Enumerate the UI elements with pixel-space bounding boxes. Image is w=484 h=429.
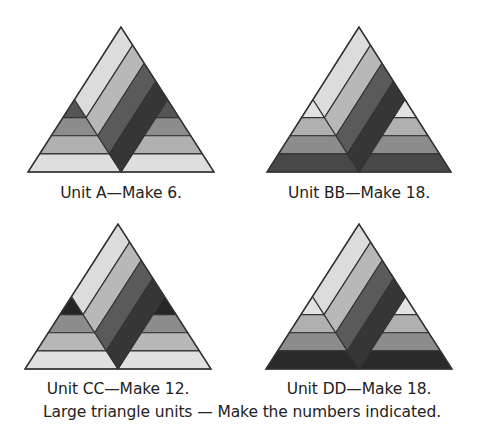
triangle-unit-dd-diagram [0, 0, 484, 429]
figure-caption: Large triangle units — Make the numbers … [0, 403, 484, 421]
unit-dd-caption: Unit DD—Make 18. [259, 380, 459, 398]
right-side-band-4 [359, 351, 452, 369]
left-side-band-4 [266, 351, 359, 369]
